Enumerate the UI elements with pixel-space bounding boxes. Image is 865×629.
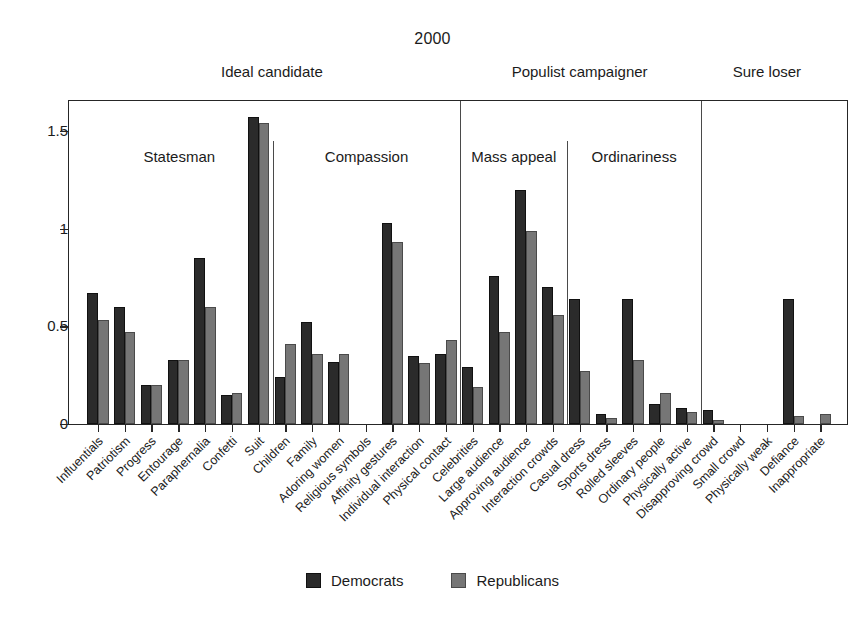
bar-democrats (221, 395, 232, 424)
bar-democrats (275, 377, 286, 424)
bar-democrats (783, 299, 794, 424)
bar-republicans (713, 420, 724, 424)
bar-democrats (301, 322, 312, 424)
bar-democrats (515, 190, 526, 424)
legend-item: Republicans (451, 572, 559, 589)
bar-democrats (676, 408, 687, 424)
bar-republicans (526, 231, 537, 424)
y-tick-mark (60, 229, 68, 230)
x-tick-mark (392, 425, 393, 432)
bar-republicans (98, 320, 109, 424)
bar-republicans (419, 363, 430, 424)
bar-republicans (205, 307, 216, 424)
bar-republicans (178, 360, 189, 424)
bar-republicans (125, 332, 136, 424)
bar-democrats (649, 404, 660, 424)
bar-republicans (232, 393, 243, 424)
bar-democrats (569, 299, 580, 424)
bar-republicans (446, 340, 457, 424)
x-tick-mark (473, 425, 474, 432)
x-tick-mark (312, 425, 313, 432)
x-tick-mark (713, 425, 714, 432)
x-tick-mark (633, 425, 634, 432)
chart-title: 2000 (0, 30, 865, 48)
y-tick-mark (60, 326, 68, 327)
x-tick-mark (499, 425, 500, 432)
legend-label: Republicans (476, 572, 559, 589)
x-tick-mark (339, 425, 340, 432)
bar-republicans (660, 393, 671, 424)
y-tick-mark (60, 424, 68, 425)
x-tick-mark (446, 425, 447, 432)
x-tick-mark (794, 425, 795, 432)
x-tick-mark (232, 425, 233, 432)
x-tick-mark (740, 425, 741, 432)
bar-republicans (687, 412, 698, 424)
y-axis: 00.511.5 (0, 100, 68, 426)
x-tick-mark (606, 425, 607, 432)
bar-democrats (408, 356, 419, 424)
bar-republicans (312, 354, 323, 424)
bar-republicans (473, 387, 484, 424)
bar-democrats (703, 410, 714, 424)
x-tick-mark (660, 425, 661, 432)
x-tick-mark (553, 425, 554, 432)
bar-republicans (820, 414, 831, 424)
x-tick-mark (178, 425, 179, 432)
bar-democrats (248, 117, 259, 424)
chart-figure: 2000 Ideal candidatePopulist campaignerS… (0, 0, 865, 629)
supergroup-label: Sure loser (733, 63, 801, 80)
bar-republicans (151, 385, 162, 424)
legend-swatch (451, 573, 466, 588)
bar-republicans (794, 416, 805, 424)
bar-democrats (141, 385, 152, 424)
bar-republicans (553, 315, 564, 424)
x-tick-mark (526, 425, 527, 432)
x-tick-mark (125, 425, 126, 432)
bar-republicans (259, 123, 270, 424)
x-axis-labels: InfluentialsPatriotismProgressEntourageP… (0, 432, 865, 557)
bar-democrats (435, 354, 446, 424)
bar-republicans (606, 418, 617, 424)
bar-republicans (633, 360, 644, 424)
bars-layer (68, 100, 848, 424)
x-tick-mark (259, 425, 260, 432)
bar-republicans (580, 371, 591, 424)
bar-republicans (499, 332, 510, 424)
legend-swatch (306, 573, 321, 588)
x-tick-mark (205, 425, 206, 432)
bar-democrats (87, 293, 98, 424)
supergroup-label: Ideal candidate (221, 63, 323, 80)
bar-democrats (114, 307, 125, 424)
x-tick-mark (285, 425, 286, 432)
bar-republicans (339, 354, 350, 424)
x-tick-mark (366, 425, 367, 432)
chart-legend: DemocratsRepublicans (0, 572, 865, 589)
bar-democrats (168, 360, 179, 424)
x-tick-mark (767, 425, 768, 432)
bar-democrats (622, 299, 633, 424)
supergroup-label: Populist campaigner (512, 63, 648, 80)
legend-label: Democrats (331, 572, 404, 589)
bar-democrats (194, 258, 205, 424)
bar-democrats (462, 367, 473, 424)
bar-democrats (489, 276, 500, 424)
legend-item: Democrats (306, 572, 404, 589)
x-tick-mark (580, 425, 581, 432)
y-tick-mark (60, 131, 68, 132)
x-tick-mark (98, 425, 99, 432)
bar-democrats (382, 223, 393, 424)
bar-democrats (596, 414, 607, 424)
bar-republicans (392, 242, 403, 424)
x-tick-mark (419, 425, 420, 432)
x-tick-mark (820, 425, 821, 432)
x-tick-mark (151, 425, 152, 432)
x-tick-mark (687, 425, 688, 432)
bar-democrats (328, 362, 339, 425)
bar-republicans (285, 344, 296, 424)
bar-democrats (542, 287, 553, 424)
